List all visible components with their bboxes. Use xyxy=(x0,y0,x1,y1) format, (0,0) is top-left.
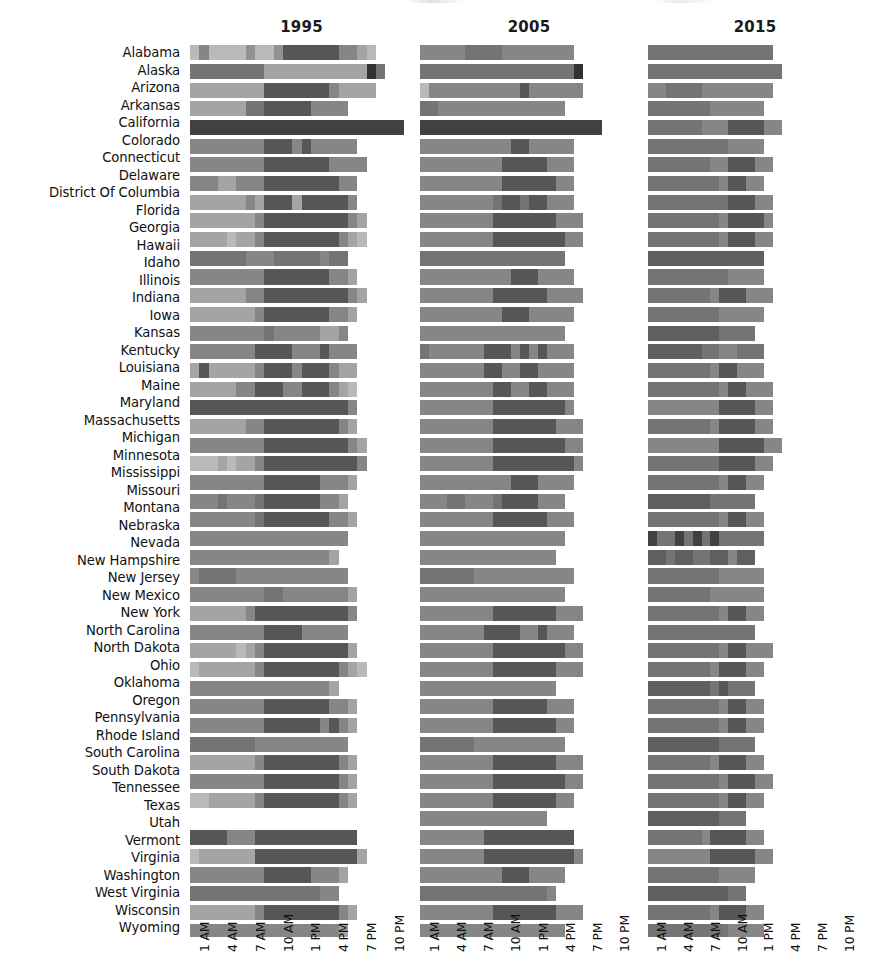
heatmap-cell[interactable] xyxy=(357,662,366,677)
heatmap-row[interactable] xyxy=(190,344,413,362)
heatmap-cell[interactable] xyxy=(209,606,218,621)
heatmap-cell[interactable] xyxy=(376,867,385,882)
heatmap-cell[interactable] xyxy=(520,867,529,882)
heatmap-row[interactable] xyxy=(648,755,862,773)
heatmap-cell[interactable] xyxy=(236,737,245,752)
heatmap-cell[interactable] xyxy=(853,157,862,172)
heatmap-cell[interactable] xyxy=(675,587,684,602)
heatmap-cell[interactable] xyxy=(493,213,502,228)
heatmap-cell[interactable] xyxy=(320,587,329,602)
heatmap-cell[interactable] xyxy=(493,568,502,583)
heatmap-cell[interactable] xyxy=(800,232,809,247)
heatmap-cell[interactable] xyxy=(511,681,520,696)
heatmap-cell[interactable] xyxy=(465,251,474,266)
heatmap-cell[interactable] xyxy=(395,512,404,527)
heatmap-cell[interactable] xyxy=(826,438,835,453)
heatmap-cell[interactable] xyxy=(502,849,511,864)
heatmap-cell[interactable] xyxy=(826,269,835,284)
heatmap-cell[interactable] xyxy=(493,382,502,397)
heatmap-cell[interactable] xyxy=(702,45,711,60)
heatmap-cell[interactable] xyxy=(728,344,737,359)
heatmap-cell[interactable] xyxy=(484,475,493,490)
heatmap-cell[interactable] xyxy=(565,699,574,714)
heatmap-cell[interactable] xyxy=(602,120,611,135)
heatmap-cell[interactable] xyxy=(292,475,301,490)
heatmap-cell[interactable] xyxy=(292,83,301,98)
heatmap-cell[interactable] xyxy=(404,681,413,696)
heatmap-cell[interactable] xyxy=(404,438,413,453)
heatmap-cell[interactable] xyxy=(429,905,438,920)
heatmap-cell[interactable] xyxy=(292,157,301,172)
heatmap-cell[interactable] xyxy=(657,550,666,565)
heatmap-cell[interactable] xyxy=(199,213,208,228)
heatmap-cell[interactable] xyxy=(764,718,773,733)
heatmap-cell[interactable] xyxy=(611,867,620,882)
heatmap-cell[interactable] xyxy=(283,157,292,172)
heatmap-cell[interactable] xyxy=(592,64,601,79)
heatmap-row[interactable] xyxy=(648,157,862,175)
heatmap-cell[interactable] xyxy=(329,830,338,845)
heatmap-cell[interactable] xyxy=(666,213,675,228)
heatmap-cell[interactable] xyxy=(755,830,764,845)
heatmap-cell[interactable] xyxy=(710,176,719,191)
heatmap-cell[interactable] xyxy=(357,606,366,621)
heatmap-cell[interactable] xyxy=(283,176,292,191)
heatmap-cell[interactable] xyxy=(218,512,227,527)
heatmap-cell[interactable] xyxy=(629,419,638,434)
heatmap-cell[interactable] xyxy=(447,419,456,434)
heatmap-cell[interactable] xyxy=(782,550,791,565)
heatmap-cell[interactable] xyxy=(529,438,538,453)
heatmap-row[interactable] xyxy=(420,344,638,362)
heatmap-cell[interactable] xyxy=(456,830,465,845)
heatmap-cell[interactable] xyxy=(556,662,565,677)
heatmap-row[interactable] xyxy=(648,326,862,344)
heatmap-cell[interactable] xyxy=(236,625,245,640)
heatmap-cell[interactable] xyxy=(227,344,236,359)
heatmap-cell[interactable] xyxy=(357,307,366,322)
heatmap-cell[interactable] xyxy=(675,699,684,714)
heatmap-cell[interactable] xyxy=(420,905,429,920)
heatmap-cell[interactable] xyxy=(809,531,818,546)
heatmap-cell[interactable] xyxy=(835,363,844,378)
heatmap-cell[interactable] xyxy=(648,886,657,901)
heatmap-cell[interactable] xyxy=(246,251,255,266)
heatmap-cell[interactable] xyxy=(283,550,292,565)
heatmap-cell[interactable] xyxy=(565,681,574,696)
heatmap-cell[interactable] xyxy=(520,83,529,98)
heatmap-cell[interactable] xyxy=(484,905,493,920)
heatmap-cell[interactable] xyxy=(574,344,583,359)
heatmap-cell[interactable] xyxy=(520,830,529,845)
heatmap-cell[interactable] xyxy=(684,438,693,453)
heatmap-cell[interactable] xyxy=(592,531,601,546)
heatmap-cell[interactable] xyxy=(583,849,592,864)
heatmap-cell[interactable] xyxy=(675,232,684,247)
heatmap-cell[interactable] xyxy=(511,849,520,864)
heatmap-cell[interactable] xyxy=(764,849,773,864)
heatmap-cell[interactable] xyxy=(255,456,264,471)
heatmap-cell[interactable] xyxy=(791,494,800,509)
heatmap-cell[interactable] xyxy=(283,587,292,602)
heatmap-cell[interactable] xyxy=(395,531,404,546)
heatmap-cell[interactable] xyxy=(292,830,301,845)
heatmap-cell[interactable] xyxy=(420,811,429,826)
heatmap-cell[interactable] xyxy=(702,849,711,864)
heatmap-cell[interactable] xyxy=(782,718,791,733)
heatmap-cell[interactable] xyxy=(484,269,493,284)
heatmap-cell[interactable] xyxy=(684,382,693,397)
heatmap-cell[interactable] xyxy=(800,195,809,210)
heatmap-cell[interactable] xyxy=(246,867,255,882)
heatmap-cell[interactable] xyxy=(311,699,320,714)
heatmap-cell[interactable] xyxy=(675,681,684,696)
heatmap-cell[interactable] xyxy=(199,83,208,98)
heatmap-cell[interactable] xyxy=(302,269,311,284)
heatmap-cell[interactable] xyxy=(818,886,827,901)
heatmap-cell[interactable] xyxy=(502,830,511,845)
heatmap-cell[interactable] xyxy=(292,456,301,471)
heatmap-cell[interactable] xyxy=(190,176,199,191)
heatmap-cell[interactable] xyxy=(438,737,447,752)
heatmap-cell[interactable] xyxy=(302,811,311,826)
heatmap-cell[interactable] xyxy=(264,344,273,359)
heatmap-cell[interactable] xyxy=(657,755,666,770)
heatmap-cell[interactable] xyxy=(420,830,429,845)
heatmap-cell[interactable] xyxy=(511,494,520,509)
